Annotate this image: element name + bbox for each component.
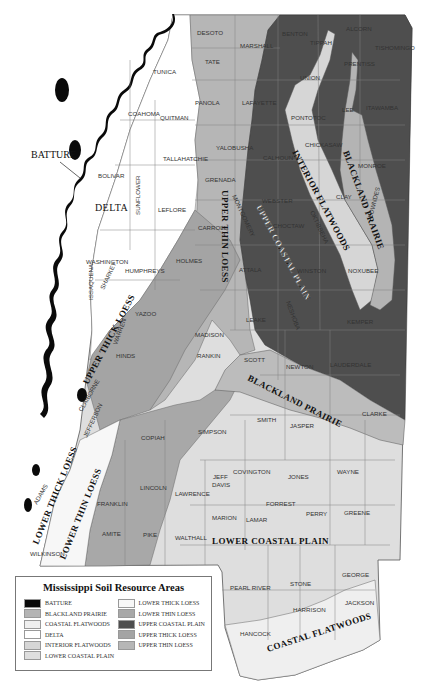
svg-text:CLARKE: CLARKE [362, 410, 387, 417]
svg-text:DAVIS: DAVIS [212, 481, 230, 488]
legend-swatch [24, 641, 41, 650]
svg-text:PANOLA: PANOLA [195, 99, 221, 106]
svg-text:FRANKLIN: FRANKLIN [97, 500, 128, 507]
svg-text:TALLAHATCHIE: TALLAHATCHIE [163, 155, 208, 162]
svg-text:CLAY: CLAY [336, 193, 352, 200]
svg-text:TIPPAH: TIPPAH [310, 39, 332, 46]
svg-text:ALCORN: ALCORN [346, 25, 372, 32]
svg-text:DESOTO: DESOTO [197, 29, 223, 36]
svg-text:YAZOO: YAZOO [135, 310, 156, 317]
svg-text:LINCOLN: LINCOLN [140, 484, 167, 491]
svg-text:WEBSTER: WEBSTER [262, 197, 293, 204]
legend-swatch [118, 630, 135, 639]
svg-text:HOLMES: HOLMES [176, 257, 202, 264]
legend-item: DELTA [24, 630, 118, 641]
svg-text:HUMPHREYS: HUMPHREYS [125, 267, 165, 274]
svg-text:TATE: TATE [205, 58, 220, 65]
legend-item: BLACKLAND PRAIRIE [24, 609, 118, 620]
svg-text:ATTALA: ATTALA [239, 266, 262, 273]
svg-text:BOLIVAR: BOLIVAR [98, 172, 125, 179]
svg-text:ISSAQUENA: ISSAQUENA [87, 263, 94, 300]
svg-text:STONE: STONE [290, 580, 311, 587]
svg-text:HARRISON: HARRISON [293, 606, 326, 613]
svg-text:WALTHALL: WALTHALL [175, 534, 208, 541]
svg-text:LAFAYETTE: LAFAYETTE [242, 99, 277, 106]
svg-text:BATTURE: BATTURE [31, 149, 76, 160]
legend-title: Mississippi Soil Resource Areas [16, 582, 211, 593]
svg-text:DELTA: DELTA [95, 202, 128, 213]
svg-text:LEAKE: LEAKE [246, 316, 266, 323]
svg-text:LOWER COASTAL PLAIN: LOWER COASTAL PLAIN [212, 536, 329, 546]
svg-text:TUNICA: TUNICA [153, 68, 177, 75]
svg-text:BENTON: BENTON [282, 30, 308, 37]
svg-text:UNION: UNION [300, 74, 320, 81]
svg-text:HINDS: HINDS [116, 352, 135, 359]
legend-swatch [118, 609, 135, 618]
svg-text:GEORGE: GEORGE [342, 571, 369, 578]
svg-text:AMITE: AMITE [102, 530, 121, 537]
legend-column-right: LOWER THICK LOESS LOWER THIN LOESS UPPER… [118, 598, 212, 661]
svg-text:WINSTON: WINSTON [297, 267, 326, 274]
svg-text:SCOTT: SCOTT [244, 356, 265, 363]
map-legend: Mississippi Soil Resource Areas BATTURE … [15, 576, 212, 671]
svg-text:MADISON: MADISON [195, 331, 224, 338]
svg-text:FORREST: FORREST [266, 500, 296, 507]
svg-text:UPPER THIN LOESS: UPPER THIN LOESS [220, 190, 230, 283]
svg-text:LAMAR: LAMAR [246, 516, 268, 523]
svg-text:ITAWAMBA: ITAWAMBA [366, 104, 399, 111]
svg-text:YALOBUSHA: YALOBUSHA [216, 144, 254, 151]
svg-text:QUITMAN: QUITMAN [160, 114, 189, 121]
legend-swatch [24, 620, 41, 629]
legend-swatch [24, 609, 41, 618]
svg-text:JONES: JONES [288, 473, 309, 480]
svg-text:HANCOCK: HANCOCK [240, 630, 272, 637]
svg-text:MONROE: MONROE [358, 162, 386, 169]
svg-text:CHICKASAW: CHICKASAW [305, 141, 342, 148]
svg-text:PRENTISS: PRENTISS [344, 60, 375, 67]
svg-text:GRENADA: GRENADA [205, 176, 236, 183]
legend-item: LOWER THIN LOESS [118, 609, 212, 620]
svg-text:SMITH: SMITH [257, 416, 276, 423]
svg-text:RANKIN: RANKIN [197, 352, 220, 359]
batture-blob [55, 78, 69, 102]
svg-text:COAHOMA: COAHOMA [128, 110, 161, 117]
svg-text:NOXUBEE: NOXUBEE [348, 267, 378, 274]
svg-text:NEWTON: NEWTON [286, 363, 313, 370]
legend-item: LOWER COASTAL PLAIN [24, 651, 118, 662]
svg-text:PEARL RIVER: PEARL RIVER [230, 584, 271, 591]
legend-swatch [24, 630, 41, 639]
svg-text:COPIAH: COPIAH [141, 434, 165, 441]
svg-text:WAYNE: WAYNE [337, 468, 359, 475]
legend-swatch [118, 620, 135, 629]
legend-swatch [24, 651, 41, 660]
svg-text:CALHOUN: CALHOUN [263, 154, 293, 161]
svg-text:PIKE: PIKE [143, 531, 157, 538]
legend-item: UPPER COASTAL PLAIN [118, 619, 212, 630]
svg-text:COVINGTON: COVINGTON [233, 468, 270, 475]
batture-blob [32, 464, 40, 476]
svg-text:CHOCTAW: CHOCTAW [273, 222, 304, 229]
svg-text:LAWRENCE: LAWRENCE [175, 490, 210, 497]
svg-text:LEE: LEE [342, 106, 354, 113]
svg-text:SIMPSON: SIMPSON [198, 428, 227, 435]
svg-text:MARION: MARION [212, 514, 237, 521]
svg-text:MARSHALL: MARSHALL [240, 42, 274, 49]
svg-text:PERRY: PERRY [306, 510, 327, 517]
legend-item: BATTURE [24, 598, 118, 609]
svg-text:PONTOTOC: PONTOTOC [291, 114, 326, 121]
legend-item: UPPER THIN LOESS [118, 640, 212, 651]
legend-swatch [24, 599, 41, 608]
legend-item: LOWER THICK LOESS [118, 598, 212, 609]
svg-text:LAUDERDALE: LAUDERDALE [330, 361, 371, 368]
svg-text:JACKSON: JACKSON [345, 599, 374, 606]
svg-text:JEFF: JEFF [213, 473, 228, 480]
svg-text:JASPER: JASPER [290, 422, 315, 429]
svg-text:KEMPER: KEMPER [347, 318, 374, 325]
svg-text:LEFLORE: LEFLORE [158, 206, 186, 213]
legend-column-left: BATTURE BLACKLAND PRAIRIE COASTAL FLATWO… [24, 598, 118, 661]
svg-text:TISHOMINGO: TISHOMINGO [375, 44, 415, 51]
svg-text:SUNFLOWER: SUNFLOWER [134, 175, 141, 215]
batture-blob [24, 498, 32, 512]
legend-item: INTERIOR FLATWOODS [24, 640, 118, 651]
legend-item: COASTAL FLATWOODS [24, 619, 118, 630]
